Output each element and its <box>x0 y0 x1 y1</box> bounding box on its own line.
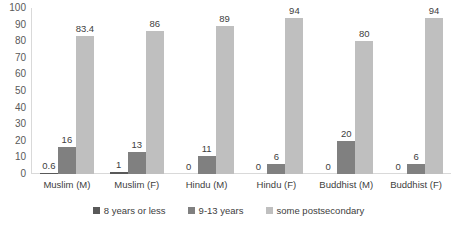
bar-slot: 11 <box>198 8 216 174</box>
y-axis-tick-50: 50 <box>15 86 26 96</box>
bar-slot: 0.6 <box>40 8 58 174</box>
bar-value-label: 0 <box>256 162 261 172</box>
bar-slot: 89 <box>216 8 234 174</box>
bar-slot: 13 <box>128 8 146 174</box>
bar-slot: 94 <box>285 8 303 174</box>
legend-label: 8 years or less <box>104 205 166 216</box>
bar-slot: 0 <box>319 8 337 174</box>
bar[interactable] <box>337 141 355 174</box>
chart-legend: 8 years or less9-13 yearssome postsecond… <box>0 201 457 219</box>
bar-slot: 0 <box>249 8 267 174</box>
x-axis-label: Hindu (M) <box>172 178 242 194</box>
bar-value-label: 13 <box>131 140 142 150</box>
bar-slot: 20 <box>337 8 355 174</box>
bar-slot: 16 <box>58 8 76 174</box>
y-axis-tick-60: 60 <box>15 69 26 79</box>
bars-container: 0.61683.411386011890694020800694 <box>32 8 451 174</box>
legend-label: some postsecondary <box>277 205 365 216</box>
y-axis-tick-100: 100 <box>9 3 26 13</box>
bar-value-label: 11 <box>202 144 212 154</box>
bar-slot: 0 <box>389 8 407 174</box>
bar-value-label: 0 <box>326 162 331 172</box>
legend-swatch-icon <box>188 207 195 214</box>
bar-value-label: 6 <box>274 152 279 162</box>
x-axis-label: Hindu (F) <box>241 178 311 194</box>
x-axis-category-labels: Muslim (M)Muslim (F)Hindu (M)Hindu (F)Bu… <box>32 178 451 194</box>
bar-value-label: 0 <box>186 162 191 172</box>
x-axis-label: Buddhist (F) <box>381 178 451 194</box>
bar-slot: 0 <box>180 8 198 174</box>
y-axis-tick-70: 70 <box>15 53 26 63</box>
bar-group: 02080 <box>311 8 381 174</box>
legend-swatch-icon <box>93 207 100 214</box>
y-axis-tick-30: 30 <box>15 119 26 129</box>
bar[interactable] <box>216 26 234 174</box>
bar[interactable] <box>285 18 303 174</box>
bar[interactable] <box>425 18 443 174</box>
bar-slot: 1 <box>110 8 128 174</box>
bar-slot: 83.4 <box>76 8 94 174</box>
bar-slot: 94 <box>425 8 443 174</box>
bar[interactable] <box>355 41 373 174</box>
bar-group: 11386 <box>102 8 172 174</box>
bar[interactable] <box>146 31 164 174</box>
x-axis-label: Muslim (M) <box>32 178 102 194</box>
bar-value-label: 6 <box>413 152 418 162</box>
x-axis-label: Muslim (F) <box>102 178 172 194</box>
bar[interactable] <box>76 36 94 174</box>
y-axis-tick-10: 10 <box>15 152 26 162</box>
bar[interactable] <box>40 173 58 174</box>
plot-area: 1009080706050403020100 0.61683.411386011… <box>0 0 457 182</box>
legend-item[interactable]: some postsecondary <box>266 205 365 216</box>
bar-value-label: 16 <box>62 135 73 145</box>
legend-swatch-icon <box>266 207 273 214</box>
legend-label: 9-13 years <box>199 205 244 216</box>
y-axis-tick-90: 90 <box>15 20 26 30</box>
bar-value-label: 1 <box>116 160 121 170</box>
bar-group: 0.61683.4 <box>32 8 102 174</box>
bar-group: 01189 <box>172 8 242 174</box>
bar-value-label: 20 <box>341 129 352 139</box>
bar[interactable] <box>110 172 128 174</box>
bar-value-label: 0.6 <box>42 161 55 171</box>
bar[interactable] <box>267 164 285 174</box>
bar-value-label: 94 <box>429 6 440 16</box>
bar-value-label: 0 <box>395 162 400 172</box>
x-axis-label: Buddhist (M) <box>311 178 381 194</box>
y-axis: 1009080706050403020100 <box>0 8 26 174</box>
bar-value-label: 94 <box>289 6 300 16</box>
bar-value-label: 80 <box>359 29 370 39</box>
bar-value-label: 86 <box>149 19 160 29</box>
bar[interactable] <box>128 152 146 174</box>
y-axis-tick-20: 20 <box>15 136 26 146</box>
bar-chart: 1009080706050403020100 0.61683.411386011… <box>0 0 457 225</box>
y-axis-tick-0: 0 <box>20 169 26 179</box>
bar-group: 0694 <box>381 8 451 174</box>
bar[interactable] <box>198 156 216 174</box>
bar-slot: 6 <box>407 8 425 174</box>
legend-item[interactable]: 9-13 years <box>188 205 244 216</box>
bar-value-label: 89 <box>219 14 230 24</box>
bar-slot: 86 <box>146 8 164 174</box>
bar-group: 0694 <box>241 8 311 174</box>
bar[interactable] <box>407 164 425 174</box>
bar-slot: 80 <box>355 8 373 174</box>
y-axis-tick-40: 40 <box>15 103 26 113</box>
y-axis-tick-80: 80 <box>15 36 26 46</box>
legend-item[interactable]: 8 years or less <box>93 205 166 216</box>
bar[interactable] <box>58 147 76 174</box>
bar-value-label: 83.4 <box>76 24 95 34</box>
bar-slot: 6 <box>267 8 285 174</box>
